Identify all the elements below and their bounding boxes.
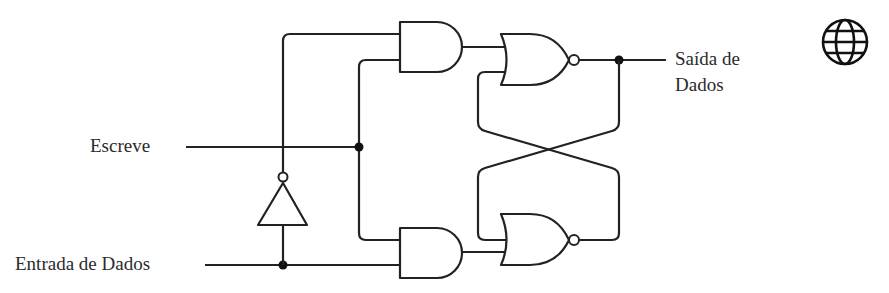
nor-bottom-bubble [569, 235, 579, 245]
write-junction-dot [355, 143, 364, 152]
inverter-output-wire [283, 34, 400, 172]
write-label: Escreve [90, 134, 150, 158]
data-out-label-line2: Dados [675, 73, 724, 97]
nor-top-bubble [569, 55, 579, 65]
and-gate-top [400, 22, 462, 72]
nor-gate-bottom [501, 214, 569, 265]
and-gate-bottom [400, 228, 462, 278]
globe-icon [823, 20, 867, 64]
not-gate-bubble [279, 173, 288, 182]
write-branch-wire [359, 60, 400, 240]
feedback-bottom-to-top [478, 72, 619, 240]
nor-gate-top [501, 34, 569, 85]
data-in-label: Entrada de Dados [15, 252, 150, 276]
data-out-label-line1: Saída de [675, 47, 740, 71]
circuit-diagram: Escreve Entrada de Dados Saída de Dados [0, 0, 889, 293]
not-gate [258, 183, 307, 225]
